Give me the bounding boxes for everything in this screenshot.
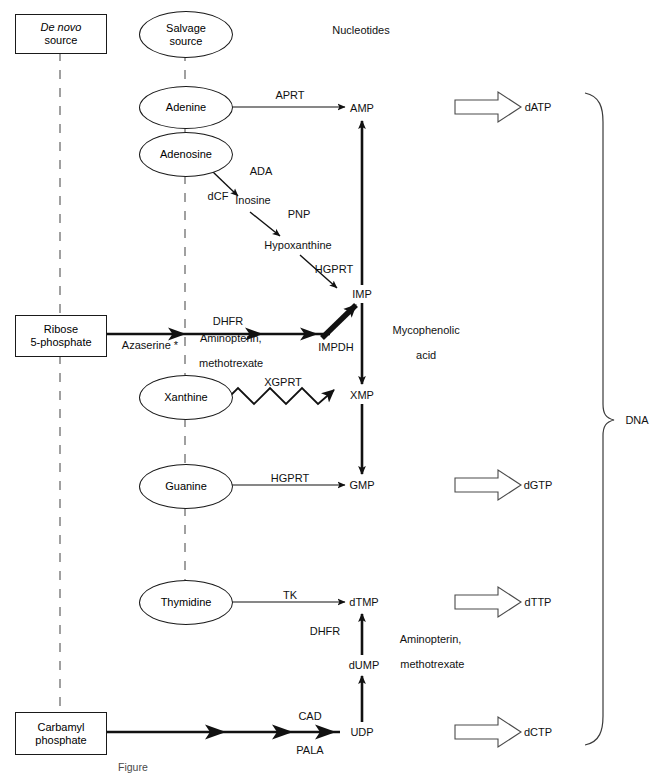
node-dtmp[interactable]: dTMP bbox=[349, 596, 378, 609]
enzyme-tk: TK bbox=[283, 589, 297, 602]
node-dctp[interactable]: dCTP bbox=[524, 726, 552, 739]
node-inosine[interactable]: Inosine bbox=[235, 194, 270, 207]
hollow-arrow-amp-datp bbox=[455, 92, 521, 122]
ribose-line2: 5-phosphate bbox=[30, 336, 91, 348]
node-xmp[interactable]: XMP bbox=[350, 389, 374, 402]
node-gmp[interactable]: GMP bbox=[349, 479, 374, 492]
node-carbamyl-phosphate[interactable]: Carbamyl phosphate bbox=[15, 712, 107, 755]
salvage-source-line1: Salvage bbox=[166, 22, 206, 34]
enzyme-pnp: PNP bbox=[288, 208, 311, 221]
enzyme-hgprt-gmp: HGPRT bbox=[271, 472, 309, 485]
salvage-source-ellipse[interactable]: Salvage source bbox=[139, 11, 233, 58]
enzyme-dhfr-dtmp: DHFR bbox=[310, 625, 341, 638]
inhibitor-mycophenolic-acid: Mycophenolic acid bbox=[380, 311, 460, 374]
inhibitor-aminopterin-denovo: Aminopterin, methotrexate bbox=[187, 319, 263, 382]
node-dttp[interactable]: dTTP bbox=[525, 596, 552, 609]
node-dgtp[interactable]: dGTP bbox=[524, 479, 553, 492]
de-novo-source-line1: De novo bbox=[41, 21, 82, 33]
inhibitor-pala: PALA bbox=[296, 744, 323, 757]
hollow-block-arrows bbox=[455, 92, 521, 747]
node-xanthine-label: Xanthine bbox=[164, 391, 207, 404]
dna-brace bbox=[585, 93, 614, 745]
hollow-arrow-gmp-dgtp bbox=[455, 470, 521, 500]
carbamyl-line1: Carbamyl bbox=[37, 721, 84, 733]
de-novo-source-box[interactable]: De novo source bbox=[15, 14, 107, 54]
inhibitor-mycophenolic-line2: acid bbox=[416, 348, 436, 360]
inhibitor-aminopterin-dtmp-line2: methotrexate bbox=[400, 658, 464, 670]
node-hypoxanthine[interactable]: Hypoxanthine bbox=[264, 239, 331, 252]
node-thymidine-label: Thymidine bbox=[161, 596, 212, 609]
arrow-inosine-to-hypoxanthine bbox=[250, 212, 280, 236]
node-ribose-5-phosphate[interactable]: Ribose 5-phosphate bbox=[15, 315, 107, 357]
hollow-arrow-udp-dctp bbox=[455, 717, 521, 747]
inhibitor-dcf: dCF bbox=[208, 190, 229, 203]
inhibitor-aminopterin-dtmp: Aminopterin, methotrexate bbox=[388, 620, 464, 683]
node-dump[interactable]: dUMP bbox=[349, 659, 380, 672]
carbamyl-chain-arrowheads bbox=[205, 725, 336, 740]
enzyme-aprt: APRT bbox=[275, 89, 304, 102]
node-adenine[interactable]: Adenine bbox=[139, 86, 233, 129]
node-datp[interactable]: dATP bbox=[525, 101, 552, 114]
node-xanthine[interactable]: Xanthine bbox=[139, 375, 233, 420]
inhibitor-mycophenolic-line1: Mycophenolic bbox=[392, 323, 459, 335]
node-adenosine-label: Adenosine bbox=[160, 148, 212, 161]
enzyme-cad: CAD bbox=[298, 710, 321, 723]
node-guanine-label: Guanine bbox=[165, 480, 207, 493]
node-guanine[interactable]: Guanine bbox=[139, 464, 233, 509]
node-udp[interactable]: UDP bbox=[350, 726, 373, 739]
node-adenine-label: Adenine bbox=[166, 101, 206, 114]
node-amp[interactable]: AMP bbox=[350, 102, 374, 115]
enzyme-hgprt-imp: HGPRT bbox=[315, 263, 353, 276]
nucleotides-heading: Nucleotides bbox=[332, 24, 389, 37]
carbamyl-line2: phosphate bbox=[35, 734, 86, 746]
inhibitor-azaserine: Azaserine * bbox=[122, 339, 178, 352]
node-thymidine[interactable]: Thymidine bbox=[139, 580, 233, 625]
ribose-line1: Ribose bbox=[44, 323, 78, 335]
node-imp[interactable]: IMP bbox=[352, 288, 372, 301]
inhibitor-aminopterin-denovo-line2: methotrexate bbox=[199, 356, 263, 368]
node-adenosine[interactable]: Adenosine bbox=[139, 132, 233, 177]
de-novo-source-line2: source bbox=[44, 34, 77, 46]
salvage-source-line2: source bbox=[169, 35, 202, 47]
enzyme-ada: ADA bbox=[250, 165, 273, 178]
inhibitor-aminopterin-dtmp-line1: Aminopterin, bbox=[400, 633, 462, 645]
hollow-arrow-dtmp-dttp bbox=[455, 587, 521, 617]
dna-label: DNA bbox=[625, 414, 648, 427]
inhibitor-aminopterin-denovo-line1: Aminopterin, bbox=[200, 331, 262, 343]
enzyme-impdh: IMPDH bbox=[318, 341, 353, 354]
enzyme-xgprt: XGPRT bbox=[264, 376, 302, 389]
arrow-impdh-to-imp bbox=[322, 305, 356, 338]
figure-caption: Figure bbox=[118, 761, 148, 773]
arrow-xanthine-to-xmp-zigzag bbox=[222, 388, 334, 404]
